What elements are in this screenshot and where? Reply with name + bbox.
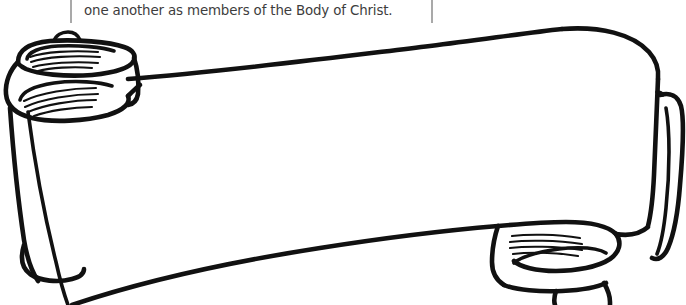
right-curl-bottom-tab-edge <box>554 291 556 305</box>
banner-svg <box>0 0 686 305</box>
right-curl-bottom-tab <box>604 283 610 305</box>
page-canvas: one another as members of the Body of Ch… <box>0 0 686 305</box>
ribbon-banner-illustration <box>0 0 686 305</box>
